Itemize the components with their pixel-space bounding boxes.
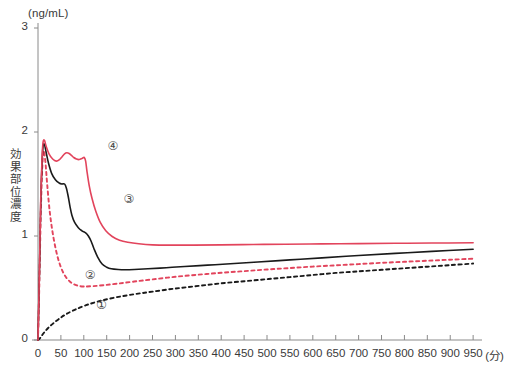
y-axis-tick-label: 3: [14, 20, 28, 32]
x-axis-tick-label: 950: [464, 347, 483, 359]
x-axis-tick-label: 650: [326, 347, 345, 359]
plot-area: [0, 0, 506, 371]
x-axis-tick-label: 750: [372, 347, 391, 359]
x-axis-tick-label: 700: [349, 347, 368, 359]
x-axis-tick-label: 550: [280, 347, 299, 359]
x-axis-tick-label: 150: [97, 347, 116, 359]
x-axis-tick-label: 0: [35, 347, 41, 359]
series-label-2: ②: [85, 268, 96, 282]
x-axis-tick-label: 200: [120, 347, 139, 359]
x-axis-tick-label: 50: [54, 347, 67, 359]
x-axis-tick-label: 600: [303, 347, 322, 359]
x-axis-tick-label: 350: [189, 347, 208, 359]
x-axis-unit-label: (分): [485, 347, 504, 363]
series-label-1: ①: [96, 298, 107, 312]
x-axis-tick-label: 300: [166, 347, 185, 359]
x-axis-tick-label: 100: [74, 347, 93, 359]
x-axis-tick-label: 400: [212, 347, 231, 359]
y-axis-tick-label: 0: [14, 332, 28, 344]
series-label-4: ④: [108, 139, 119, 153]
axis-lines: [32, 23, 482, 340]
series-label-3: ③: [124, 192, 135, 206]
y-axis-tick-label: 2: [14, 124, 28, 136]
x-axis-tick-label: 500: [257, 347, 276, 359]
x-axis-tick-label: 250: [143, 347, 162, 359]
x-axis-tick-label: 800: [395, 347, 414, 359]
chart-container: (ng/mL) 効果部位濃度 0123050100150200250300350…: [0, 0, 506, 371]
x-axis-tick-label: 900: [441, 347, 460, 359]
x-axis-tick-label: 850: [418, 347, 437, 359]
x-axis-tick-label: 450: [235, 347, 254, 359]
y-axis-tick-label: 1: [14, 228, 28, 240]
